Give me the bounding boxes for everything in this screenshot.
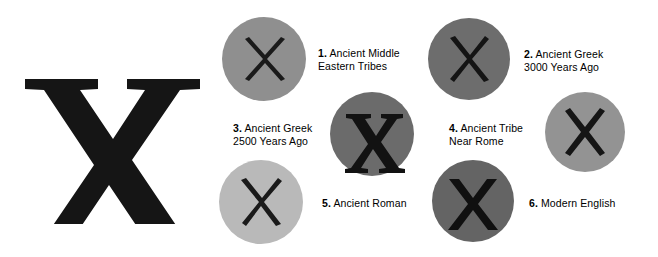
caption-3-number: 3. [233,122,242,134]
caption-5: 5. Ancient Roman [322,197,407,210]
caption-1-line2: Eastern Tribes [318,60,387,72]
glyph-circle-5 [219,160,303,244]
caption-4: 4. Ancient Tribe Near Rome [449,122,523,147]
caption-4-line2: Near Rome [449,135,504,147]
caption-2-line1: Ancient Greek [535,48,603,60]
glyph-circle-4 [545,92,625,172]
caption-1-number: 1. [318,47,327,59]
hero-letter-x [14,44,214,224]
caption-6: 6. Modern English [529,197,615,210]
caption-4-number: 4. [449,122,458,134]
glyph-circle-6 [432,160,514,242]
caption-3-line2: 2500 Years Ago [233,135,308,147]
caption-2: 2. Ancient Greek 3000 Years Ago [524,48,603,73]
glyph-circle-1 [222,17,306,101]
glyph-circle-2 [428,18,510,100]
caption-6-number: 6. [529,197,538,209]
caption-2-number: 2. [524,48,533,60]
caption-2-line2: 3000 Years Ago [524,61,599,73]
caption-4-line1: Ancient Tribe [460,122,523,134]
caption-6-line1: Modern English [541,197,615,209]
caption-3-line1: Ancient Greek [244,122,312,134]
hero-letter-x-path [24,79,204,224]
figure-canvas: 1. Ancient Middle Eastern Tribes 2. Anci… [0,0,658,257]
caption-5-line1: Ancient Roman [333,197,406,209]
caption-3: 3. Ancient Greek 2500 Years Ago [233,122,312,147]
caption-1: 1. Ancient Middle Eastern Tribes [318,47,400,72]
glyph-circle-3 [330,92,414,176]
caption-5-number: 5. [322,197,331,209]
caption-1-line1: Ancient Middle [329,47,399,59]
